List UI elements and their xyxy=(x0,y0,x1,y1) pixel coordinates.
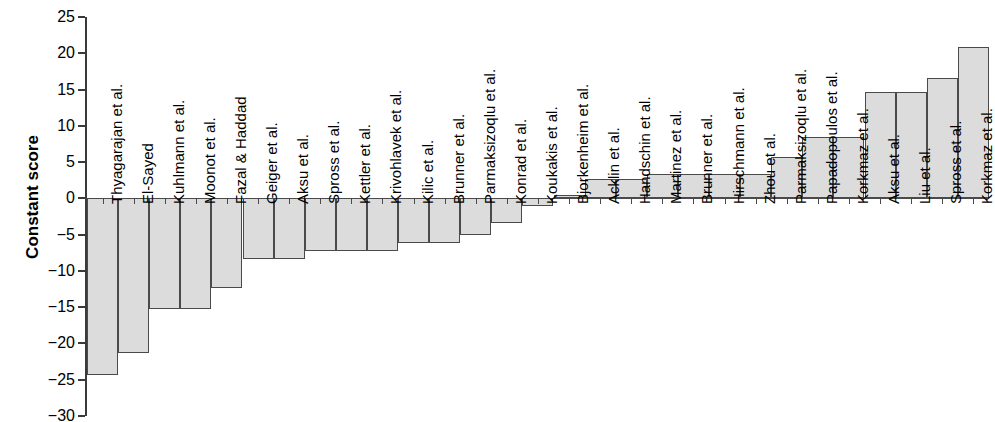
y-axis-tick xyxy=(78,89,85,91)
x-axis-category-label: Kettler et al. xyxy=(357,124,372,204)
x-axis-category-labels: Thyagarajan et al.El-SayedKuhlmann et al… xyxy=(85,0,987,422)
y-axis-tick-label: 25 xyxy=(57,9,75,25)
y-axis-tick-label: 10 xyxy=(57,118,75,134)
y-axis-tick-label: −20 xyxy=(48,335,75,351)
y-axis-tick xyxy=(78,16,85,18)
x-axis-category-label: Martinez et al. xyxy=(668,110,683,204)
x-axis-category-label: Koukakis et al. xyxy=(544,107,559,205)
x-axis-category-label: Zhou et al. xyxy=(762,133,777,204)
y-axis-tick xyxy=(78,52,85,54)
y-axis-tick-label: −25 xyxy=(48,372,75,388)
x-axis-category-label: Krivohlavek et al. xyxy=(388,90,403,204)
x-axis-category-label: Brunner et al. xyxy=(451,114,466,204)
y-axis-tick xyxy=(78,306,85,308)
x-axis-category-label: El-Sayed xyxy=(140,143,155,204)
x-axis-category-label: Geiger et al. xyxy=(264,123,279,205)
y-axis-tick xyxy=(78,379,85,381)
x-axis-category-label: Moonot et al. xyxy=(202,118,217,205)
y-axis-tick xyxy=(78,415,85,417)
y-axis-tick-label: 5 xyxy=(66,154,75,170)
x-axis-category-label: Brunner et al. xyxy=(699,114,714,204)
x-axis-category-label: Acklin et al. xyxy=(606,128,621,205)
y-axis-tick xyxy=(78,125,85,127)
x-axis-category-label: Korkmaz et al. xyxy=(979,108,994,204)
x-axis-category-label: Aksu et al. xyxy=(295,134,310,204)
y-axis-tick xyxy=(78,234,85,236)
x-axis-category-label: Hirschmann et al. xyxy=(731,88,746,205)
y-axis-tick xyxy=(78,197,85,199)
x-axis-category-label: Spross et al. xyxy=(948,121,963,204)
x-axis-category-label: Fazal & Haddad xyxy=(233,97,248,205)
x-axis-category-label: Korkmaz et al. xyxy=(855,108,870,204)
y-axis-tick-label: −15 xyxy=(48,299,75,315)
y-axis-tick-label: −30 xyxy=(48,408,75,422)
y-axis-tick xyxy=(78,270,85,272)
x-axis-category-label: Spross et al. xyxy=(326,121,341,204)
x-axis-category-label: Aksu et al. xyxy=(886,134,901,204)
x-axis-category-label: Konrad et al. xyxy=(513,119,528,204)
y-axis-tick xyxy=(78,161,85,163)
y-axis-tick-labels: 2520151050−5−10−15−20−25−30 xyxy=(7,17,75,416)
x-axis-category-label: Papadopoulos et al. xyxy=(824,72,839,205)
y-axis-tick-label: −5 xyxy=(57,227,75,243)
x-axis-category-label: Parmaksizoqlu et al. xyxy=(482,69,497,204)
x-axis-category-label: Parmaksizoqlu et al. xyxy=(793,69,808,204)
y-axis-tick xyxy=(78,342,85,344)
x-axis-category-label: Liu et al. xyxy=(917,148,932,205)
y-axis-tick-label: 20 xyxy=(57,45,75,61)
x-axis-category-label: Kuhlmann et al. xyxy=(171,100,186,204)
x-axis-category-label: Kilic et al. xyxy=(420,140,435,204)
y-axis-tick-label: 0 xyxy=(66,190,75,206)
x-axis-category-label: Bjorkenheim et al. xyxy=(575,84,590,204)
y-axis-tick-label: −10 xyxy=(48,263,75,279)
y-axis-tick-label: 15 xyxy=(57,82,75,98)
x-axis-category-label: Handschin et al. xyxy=(637,97,652,205)
x-axis-category-label: Thyagarajan et al. xyxy=(109,84,124,204)
